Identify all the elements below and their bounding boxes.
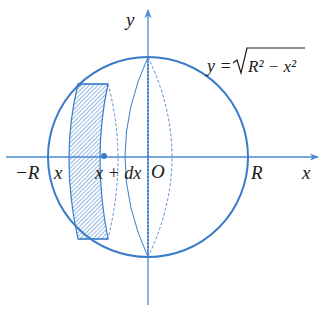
- x-plus-dx-marker: [101, 153, 107, 159]
- origin-label: O: [151, 161, 165, 182]
- x-tick-label: x: [53, 162, 63, 183]
- equation-radicand: R² − x²: [247, 57, 297, 76]
- curve-equation: y = R² − x²: [205, 48, 305, 76]
- slice-top-point: [77, 83, 81, 87]
- y-axis-label: y: [124, 9, 135, 30]
- sphere-slice-diagram: y x O −R R x x + dx y = R² − x²: [0, 0, 323, 326]
- equation-prefix: y =: [205, 56, 232, 76]
- hatched-slice: [69, 84, 108, 239]
- diagram-svg: y x O −R R x x + dx y = R² − x²: [0, 0, 323, 326]
- neg-r-label: −R: [15, 162, 40, 183]
- x-plus-dx-label: x + dx: [94, 163, 141, 183]
- x-axis-label: x: [301, 162, 311, 183]
- slice-dashed-arc: [108, 84, 118, 239]
- pos-r-label: R: [250, 162, 263, 183]
